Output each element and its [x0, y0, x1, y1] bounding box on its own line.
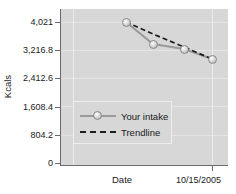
data-point-marker [122, 18, 131, 27]
legend-swatch-line-icon [80, 110, 116, 122]
y-tick-mark [55, 22, 61, 23]
y-tick-mark [55, 163, 61, 164]
y-tick-mark [55, 78, 61, 79]
y-tick-label: 4,021 [30, 17, 53, 27]
y-tick-label: 804.2 [30, 130, 53, 140]
legend-label: Trendline [121, 127, 160, 138]
legend-item-trendline: Trendline [80, 125, 160, 139]
y-tick-label: 3,216.8 [23, 45, 53, 55]
chart-legend: Your intake Trendline [73, 101, 172, 144]
x-tick-mark [212, 166, 213, 171]
gridline-horizontal [61, 78, 228, 79]
legend-swatch-marker-icon [93, 111, 102, 120]
y-tick-label: 2,412.6 [23, 73, 53, 83]
legend-label: Your intake [121, 111, 168, 122]
gridline-horizontal [61, 50, 228, 51]
y-tick-mark [55, 107, 61, 108]
data-point-marker [208, 55, 217, 64]
y-tick-label: 1,608.4 [23, 102, 53, 112]
gridline-vertical [212, 9, 213, 165]
data-point-marker [149, 40, 158, 49]
x-axis-title: Date [112, 175, 132, 185]
y-tick-label: 0 [48, 158, 53, 168]
legend-swatch-dashed-icon [80, 126, 116, 138]
y-axis-line [60, 9, 61, 166]
legend-item-your-intake: Your intake [80, 109, 168, 123]
gridline-horizontal [61, 22, 228, 23]
y-tick-mark [55, 50, 61, 51]
chart-container: 4,021 3,216.8 2,412.6 1,608.4 804.2 0 10… [0, 0, 236, 194]
x-axis-line [60, 165, 228, 166]
y-tick-mark [55, 135, 61, 136]
x-tick-label: 10/15/2005 [176, 175, 221, 185]
data-point-marker [180, 45, 189, 54]
y-axis-title: Kcals [2, 65, 13, 109]
